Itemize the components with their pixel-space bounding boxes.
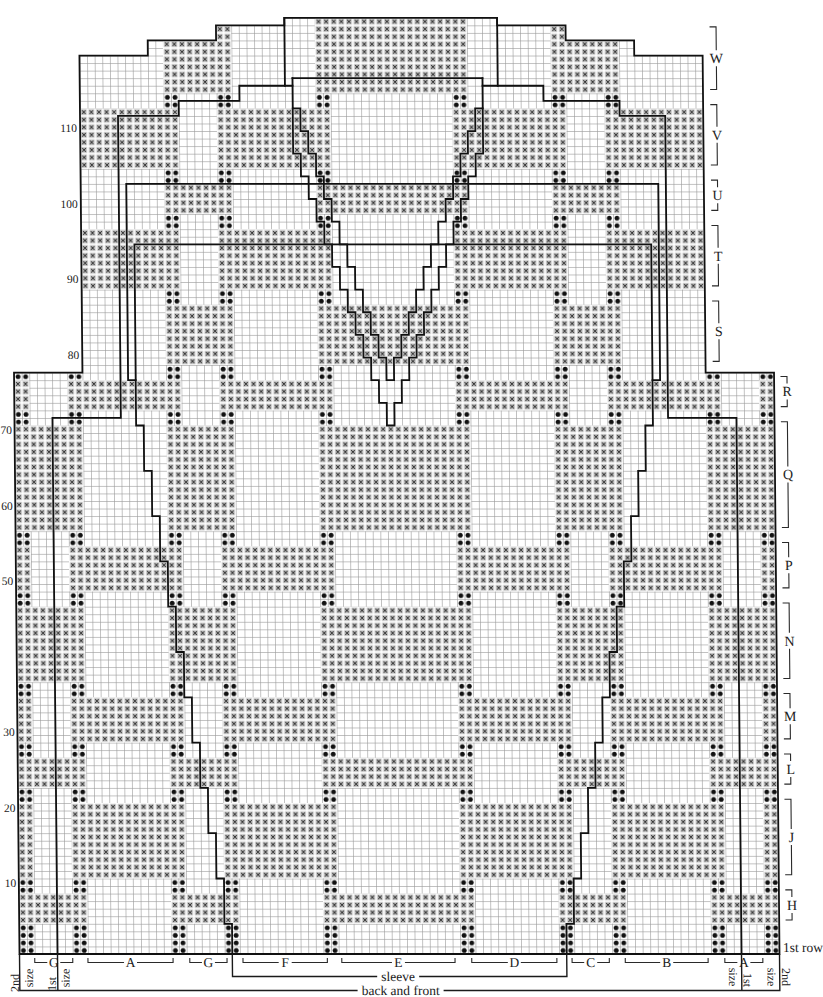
bobble-dots: [556, 592, 571, 607]
bobble-dots: [222, 682, 237, 697]
bobble-dots: [705, 290, 720, 305]
band-letter: H: [787, 898, 797, 913]
contrast-colour-block: [167, 426, 236, 532]
bobble-dots: [19, 879, 34, 894]
bobble-dots: [165, 290, 180, 305]
contrast-colour-block: [706, 426, 775, 532]
bobble-dots: [610, 682, 625, 697]
contrast-colour-block: [759, 380, 774, 410]
bobble-dots: [756, 93, 771, 108]
bobble-dots: [710, 788, 725, 803]
size-label: 1st: [740, 973, 754, 988]
bobble-dots: [703, 93, 718, 108]
band-letter: W: [710, 51, 724, 66]
row-number: 90: [67, 273, 79, 285]
bobble-dots: [458, 682, 473, 697]
bobble-dots: [762, 743, 777, 758]
contrast-colour-block: [323, 894, 475, 924]
contrast-colour-block: [18, 758, 87, 788]
bobble-dots: [72, 879, 87, 894]
contrast-colour-block: [217, 108, 332, 168]
contrast-colour-block: [452, 108, 567, 168]
bobble-dots: [221, 592, 236, 607]
contrast-colour-block: [17, 697, 33, 742]
bobble-dots: [223, 743, 238, 758]
bobble-dots: [760, 531, 775, 546]
row-band-bracket: V: [710, 105, 722, 165]
bobble-dots: [16, 531, 31, 546]
bobble-dots: [460, 879, 475, 894]
contrast-colour-block: [607, 380, 721, 410]
bobble-dots: [460, 924, 475, 954]
band-letter: V: [712, 128, 722, 143]
bobble-dots: [704, 169, 719, 184]
bobble-dots: [558, 788, 573, 803]
bobble-dots: [759, 410, 774, 425]
column-band-bracket: G: [35, 955, 73, 970]
bobble-dots: [16, 592, 31, 607]
bobble-dots: [455, 410, 470, 425]
column-band-bracket: E: [342, 955, 455, 970]
bobble-dots: [609, 592, 624, 607]
bobble-dots: [71, 788, 86, 803]
bobble-dots: [224, 879, 239, 894]
contrast-colour-block: [320, 607, 473, 683]
row-number: 20: [4, 802, 16, 814]
row-number: 60: [1, 500, 13, 512]
first-row-label: 1st row: [783, 940, 823, 955]
contrast-colour-block: [557, 758, 626, 788]
contrast-colour-block: [322, 758, 474, 788]
bobble-dots: [14, 410, 29, 425]
contrast-colour-block: [18, 803, 34, 879]
contrast-colour-block: [554, 426, 623, 532]
stitch-grid: [11, 18, 780, 954]
contrast-colour-block: [604, 108, 719, 168]
bobble-dots: [764, 924, 779, 954]
row-number: 70: [0, 424, 12, 436]
row-band-bracket: L: [784, 754, 795, 784]
knitting-chart: 1101009080706050302010 HJLMNPQRSTUVW GAG…: [0, 0, 823, 997]
contrast-colour-block: [11, 18, 80, 94]
bobble-dots: [13, 290, 28, 305]
back-neck-2nd-size-left: [284, 18, 285, 86]
contrast-colour-block: [223, 803, 338, 879]
bobble-dots: [757, 169, 772, 184]
bobble-dots: [19, 924, 34, 954]
size-label: size: [22, 969, 36, 988]
bobble-dots: [610, 743, 625, 758]
bobble-dots: [12, 169, 27, 184]
bobble-dots: [762, 682, 777, 697]
row-band-bracket: M: [783, 694, 797, 739]
bobble-dots: [554, 410, 569, 425]
bobble-dots: [65, 169, 80, 184]
bobble-dots: [459, 788, 474, 803]
column-letter: F: [281, 955, 289, 970]
contrast-colour-block: [552, 184, 621, 214]
bobble-dots: [606, 290, 621, 305]
bobble-dots: [166, 365, 181, 380]
bobble-dots: [315, 93, 330, 108]
contrast-colour-block: [559, 894, 628, 924]
column-band-bracket: B: [625, 955, 708, 970]
bobble-dots: [322, 788, 337, 803]
bobble-dots: [557, 682, 572, 697]
contrast-colour-block: [553, 305, 622, 365]
row-band-bracket: N: [783, 603, 795, 679]
contrast-colour-block: [168, 607, 237, 683]
column-band-bracket: F: [243, 955, 328, 970]
contrast-colour-block: [16, 546, 32, 591]
band-letter: R: [782, 384, 792, 399]
contrast-colour-block: [459, 803, 574, 879]
bobble-dots: [553, 290, 568, 305]
bobble-dots: [763, 788, 778, 803]
bobble-dots: [13, 214, 28, 229]
bobble-dots: [320, 592, 335, 607]
bobble-dots: [217, 169, 232, 184]
bobble-dots: [557, 743, 572, 758]
chart-canvas: 1101009080706050302010 HJLMNPQRSTUVW GAG…: [0, 18, 823, 997]
contrast-colour-block: [458, 697, 572, 742]
contrast-colour-block: [608, 546, 722, 591]
bobble-dots: [605, 214, 620, 229]
column-letter: B: [662, 955, 671, 970]
bobble-dots: [764, 879, 779, 894]
